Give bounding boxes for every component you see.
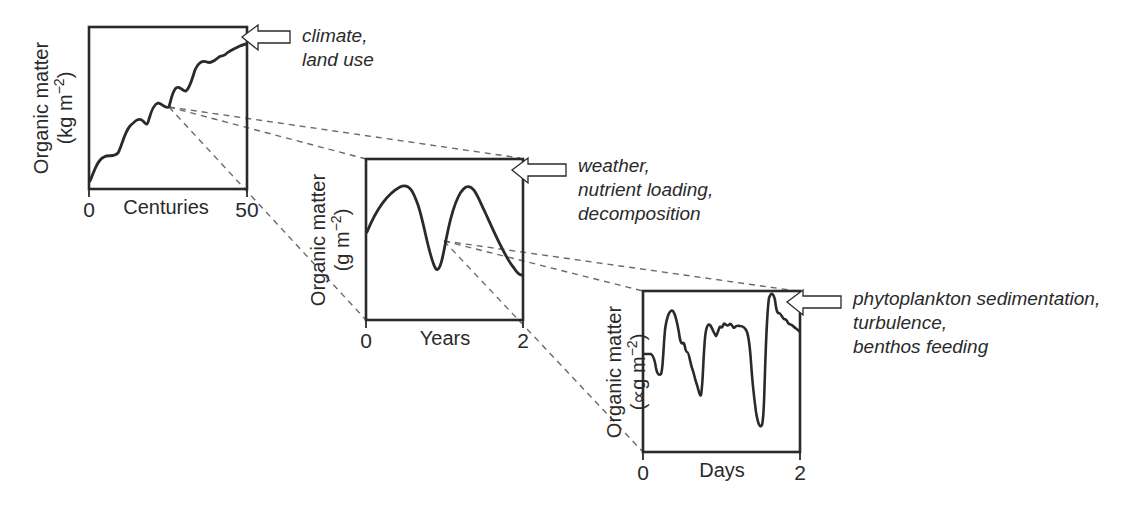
driver-label-line: benthos feeding	[853, 336, 989, 357]
hollow-left-arrow-icon	[787, 290, 841, 315]
hollow-left-arrow-icon	[512, 158, 566, 183]
x-tick-label-start: 0	[360, 329, 372, 352]
x-axis-title: Years	[420, 327, 470, 349]
driver-label-line: land use	[302, 49, 374, 70]
y-axis-title-units: (g m−2)	[328, 209, 353, 272]
x-tick-label-end: 50	[235, 198, 258, 221]
driver-label-line: turbulence,	[853, 312, 947, 333]
y-axis-title-line1: Organic matter	[307, 174, 329, 307]
x-axis-title: Centuries	[123, 196, 209, 218]
x-axis-title: Days	[699, 459, 745, 481]
y-axis-title: Organic matter (g m−2)	[307, 174, 353, 307]
organic-matter-curve	[367, 186, 522, 275]
driver-label-line: phytoplankton sedimentation,	[852, 288, 1100, 309]
multiscale-organic-matter-diagram: 0 50 Centuries Organic matter (kg m−2) c…	[0, 0, 1144, 515]
y-axis-title: Organic matter (kg m−2)	[30, 42, 76, 175]
x-tick-label-end: 2	[794, 461, 806, 484]
y-axis-title-line1: Organic matter	[603, 306, 625, 439]
connector-line	[444, 241, 643, 291]
x-tick-label-end: 2	[517, 329, 529, 352]
x-tick-label-start: 0	[83, 198, 95, 221]
y-axis-title-units: (kg m−2)	[51, 72, 76, 145]
hollow-left-arrow-icon	[242, 25, 290, 50]
panel-days: 0 2 Days Organic matter (∝g m−2) phytopl…	[603, 288, 1100, 484]
driver-label-line: decomposition	[578, 203, 701, 224]
plot-frame	[643, 291, 800, 452]
organic-matter-curve	[644, 294, 799, 427]
driver-label-line: climate,	[302, 25, 367, 46]
x-tick-label-start: 0	[637, 461, 649, 484]
connector-line	[444, 241, 797, 291]
y-axis-title-line1: Organic matter	[30, 42, 52, 175]
panel-years: 0 2 Years Organic matter (g m−2) weather…	[307, 155, 713, 352]
plot-frame	[366, 159, 523, 320]
y-axis-title-units: (∝g m−2)	[624, 334, 649, 411]
driver-label-line: weather,	[578, 155, 650, 176]
driver-label-line: nutrient loading,	[578, 179, 713, 200]
